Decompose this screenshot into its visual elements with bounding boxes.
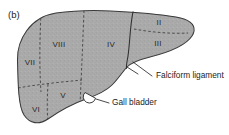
segment-label-ii: II (156, 18, 161, 27)
segment-label-iii: III (154, 39, 162, 48)
segment-label-v: V (60, 91, 66, 100)
segment-label-vi: VI (32, 105, 40, 114)
gall-bladder-label: Gall bladder (112, 97, 157, 107)
panel-label: (b) (8, 9, 20, 20)
liver-outline (17, 10, 194, 122)
liver-diagram-svg: (b) VII VIII IV II III V VI Falciform li… (0, 0, 229, 135)
falciform-ligament-label: Falciform ligament (156, 70, 224, 80)
gall-bladder-leader-line (96, 99, 109, 103)
segment-label-vii: VII (25, 58, 36, 67)
segment-label-viii: VIII (52, 40, 65, 49)
segment-label-iv: IV (107, 40, 116, 49)
liver-segments-figure: (b) VII VIII IV II III V VI Falciform li… (0, 0, 229, 135)
